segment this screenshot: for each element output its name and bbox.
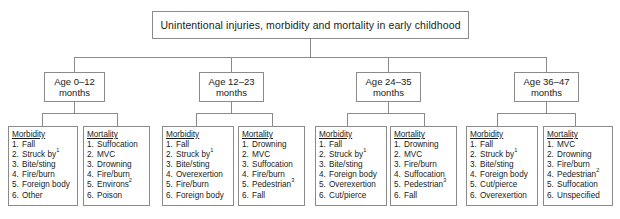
- leaf-item: 6.Fall: [242, 191, 301, 201]
- leaf-node-3: Mortality 1.Drowning2.MVC3.Suffocation4.…: [238, 126, 305, 206]
- leaf-item: 1.MVC: [547, 140, 609, 150]
- leaf-item-label: Bite/sting: [22, 160, 56, 170]
- leaf-item-label: Suffocation: [252, 160, 293, 170]
- leaf-item-footnote-marker: 1: [363, 150, 366, 160]
- leaf-item-number: 6.: [166, 191, 176, 201]
- leaf-item: 1.Drowning: [242, 140, 301, 150]
- leaf-item-number: 6.: [87, 191, 97, 201]
- leaf-item: 5.Environs2: [87, 180, 146, 190]
- leaf-item-number: 6.: [12, 191, 22, 201]
- leaf-item: 2.MVC: [394, 150, 453, 160]
- leaf-item-number: 5.: [470, 180, 480, 190]
- leaf-item: 1.Suffocation: [87, 140, 146, 150]
- leaf-item-label: Drowning: [252, 140, 287, 150]
- leaf-item-label: Environs: [97, 180, 129, 190]
- leaf-list-5: 1.Drowning2.MVC3.Fire/burn4.Suffocation5…: [394, 140, 453, 201]
- leaf-item-footnote-marker: 3: [291, 180, 294, 190]
- leaf-title-0: Morbidity: [12, 130, 74, 140]
- leaf-item: 3.Bite/sting: [12, 160, 74, 170]
- leaf-item-number: 6.: [394, 191, 404, 201]
- leaf-item-footnote-marker: 1: [56, 150, 59, 160]
- leaf-item-number: 6.: [242, 191, 252, 201]
- leaf-item-label: Cut/pierce: [329, 191, 366, 201]
- leaf-item-label: Struck by: [176, 150, 210, 160]
- leaf-title-1: Mortality: [87, 130, 146, 140]
- leaf-item: 4.Foreign body: [470, 170, 534, 180]
- leaf-item-label: Foreign body: [480, 170, 528, 180]
- leaf-item-label: Drowning: [404, 140, 439, 150]
- leaf-item: 3.Fire/burn: [394, 160, 453, 170]
- leaf-item-number: 5.: [166, 180, 176, 190]
- leaf-item-number: 6.: [470, 191, 480, 201]
- leaf-item: 5.Suffocation: [547, 180, 609, 190]
- leaf-item-footnote-marker: 3: [443, 180, 446, 190]
- leaf-item: 2.MVC: [87, 150, 146, 160]
- hierarchy-diagram: Unintentional injuries, morbidity and mo…: [0, 0, 620, 219]
- leaf-item: 2.Struck by1: [12, 150, 74, 160]
- leaf-item: 5.Pedestrian3: [394, 180, 453, 190]
- leaf-item-label: MVC: [97, 150, 115, 160]
- leaf-item-label: Drowning: [557, 150, 592, 160]
- leaf-item: 6.Cut/pierce: [319, 191, 383, 201]
- leaf-item: 3.Suffocation: [242, 160, 301, 170]
- leaf-item: 2.Struck by1: [470, 150, 534, 160]
- leaf-item: 6.Overexertion: [470, 191, 534, 201]
- leaf-item: 6.Unspecified: [547, 191, 609, 201]
- age-group-node-1: Age 12–23 months: [199, 72, 264, 102]
- leaf-item-label: Fall: [22, 140, 35, 150]
- leaf-item-number: 4.: [470, 170, 480, 180]
- leaf-item-number: 2.: [319, 150, 329, 160]
- leaf-list-2: 1.Fall2.Struck by13.Bite/sting4.Overexer…: [166, 140, 230, 201]
- leaf-item-label: Struck by: [329, 150, 363, 160]
- leaf-item-footnote-marker: 1: [514, 150, 517, 160]
- leaf-item: 6.Fall: [394, 191, 453, 201]
- leaf-item-number: 1.: [319, 140, 329, 150]
- leaf-item-number: 3.: [319, 160, 329, 170]
- leaf-item-label: Fall: [252, 191, 265, 201]
- leaf-item-label: Struck by: [480, 150, 514, 160]
- leaf-title-3: Mortality: [242, 130, 301, 140]
- leaf-item-label: MVC: [252, 150, 270, 160]
- leaf-item-number: 6.: [319, 191, 329, 201]
- leaf-item-number: 4.: [12, 170, 22, 180]
- leaf-node-2: Morbidity 1.Fall2.Struck by13.Bite/sting…: [162, 126, 234, 206]
- leaf-item-label: Foreign body: [329, 170, 377, 180]
- leaf-item-number: 5.: [87, 180, 97, 190]
- leaf-node-5: Mortality 1.Drowning2.MVC3.Fire/burn4.Su…: [390, 126, 457, 206]
- leaf-item-label: Fire/burn: [252, 170, 285, 180]
- leaf-item-label: Fall: [176, 140, 189, 150]
- root-label: Unintentional injuries, morbidity and mo…: [160, 19, 460, 31]
- age-group-unit-3: months: [531, 87, 562, 98]
- leaf-item-label: Bite/sting: [176, 160, 210, 170]
- leaf-item-label: Pedestrian: [404, 180, 443, 190]
- leaf-item-number: 1.: [470, 140, 480, 150]
- age-group-unit-1: months: [216, 87, 247, 98]
- leaf-item-label: Overexertion: [176, 170, 223, 180]
- leaf-item-number: 5.: [12, 180, 22, 190]
- leaf-item-number: 2.: [12, 150, 22, 160]
- leaf-item: 1.Fall: [166, 140, 230, 150]
- age-group-range-1: Age 12–23: [209, 76, 255, 87]
- leaf-item: 1.Drowning: [394, 140, 453, 150]
- leaf-item: 4.Pedestrian2: [547, 170, 609, 180]
- leaf-item-label: Poison: [97, 191, 122, 201]
- age-group-unit-2: months: [373, 87, 404, 98]
- leaf-list-6: 1.Fall2.Struck by13.Bite/sting4.Foreign …: [470, 140, 534, 201]
- leaf-item-number: 5.: [242, 180, 252, 190]
- leaf-item: 6.Other: [12, 191, 74, 201]
- leaf-list-7: 1.MVC2.Drowning3.Fire/burn4.Pedestrian25…: [547, 140, 609, 201]
- leaf-item-label: Fire/burn: [22, 170, 55, 180]
- leaf-item-label: Suffocation: [404, 170, 445, 180]
- age-group-range-3: Age 36–47: [524, 76, 570, 87]
- leaf-list-1: 1.Suffocation2.MVC3.Drowning4.Fire/burn5…: [87, 140, 146, 201]
- leaf-item-label: MVC: [404, 150, 422, 160]
- leaf-item: 1.Fall: [12, 140, 74, 150]
- leaf-title-4: Morbidity: [319, 130, 383, 140]
- leaf-item-number: 2.: [242, 150, 252, 160]
- leaf-item-number: 2.: [394, 150, 404, 160]
- leaf-item: 2.Struck by1: [166, 150, 230, 160]
- leaf-item-number: 1.: [87, 140, 97, 150]
- leaf-item: 5.Cut/pierce: [470, 180, 534, 190]
- leaf-item-number: 3.: [547, 160, 557, 170]
- leaf-node-1: Mortality 1.Suffocation2.MVC3.Drowning4.…: [83, 126, 150, 206]
